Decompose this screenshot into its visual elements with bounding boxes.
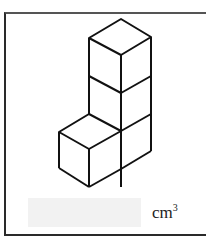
front-cube-top	[59, 114, 121, 149]
answer-input[interactable]	[28, 198, 141, 227]
unit-label: cm3	[152, 202, 178, 223]
top-face	[89, 19, 151, 55]
